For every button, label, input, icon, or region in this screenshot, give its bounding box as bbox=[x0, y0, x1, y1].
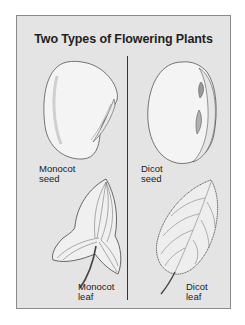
illustrations bbox=[17, 16, 230, 308]
monocot-seed-label: Monocot seed bbox=[39, 164, 75, 184]
dicot-leaf-label-line2: leaf bbox=[186, 292, 208, 302]
dicot-seed-label: Dicot seed bbox=[141, 164, 163, 184]
monocot-seed-illustration bbox=[44, 61, 118, 159]
monocot-leaf-label: Monocot leaf bbox=[78, 282, 114, 302]
diagram-panel: Two Types of Flowering Plants bbox=[16, 15, 231, 309]
dicot-seed-illustration bbox=[148, 62, 216, 164]
monocot-leaf-label-line2: leaf bbox=[78, 292, 114, 302]
monocot-leaf-illustration bbox=[52, 179, 120, 288]
dicot-leaf-illustration bbox=[157, 180, 218, 294]
monocot-seed-label-line2: seed bbox=[39, 174, 75, 184]
dicot-leaf-label: Dicot leaf bbox=[186, 282, 208, 302]
dicot-seed-label-line2: seed bbox=[141, 174, 163, 184]
